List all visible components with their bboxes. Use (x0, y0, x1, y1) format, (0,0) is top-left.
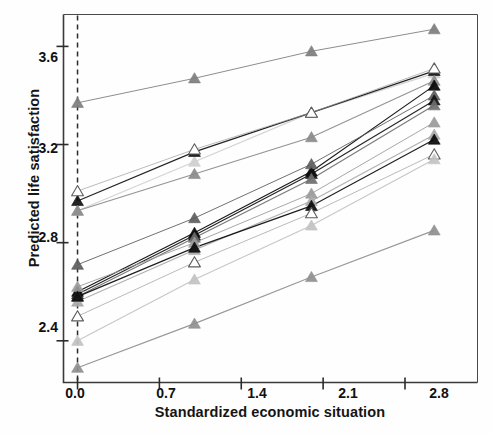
series-line (78, 159, 435, 341)
series-marker (189, 213, 201, 223)
series-marker (189, 156, 201, 166)
series-line (78, 122, 435, 286)
series-marker (189, 318, 201, 328)
series-marker (428, 24, 440, 34)
series-marker (72, 205, 84, 215)
chart-figure: Predicted life satisfaction Standardized… (0, 0, 492, 434)
series-marker (305, 107, 317, 117)
series-line (78, 81, 435, 211)
plot-area (0, 0, 492, 434)
series-marker (428, 63, 440, 73)
series-marker (305, 132, 317, 142)
series-marker (72, 259, 84, 269)
series-line (78, 69, 435, 192)
series-marker (305, 159, 317, 169)
series-marker (72, 195, 84, 205)
series-marker (72, 186, 84, 196)
series-marker (189, 274, 201, 284)
series-marker (72, 362, 84, 372)
series-marker (428, 225, 440, 235)
series-lines (78, 29, 435, 368)
series-marker (189, 144, 201, 154)
series-marker (428, 117, 440, 127)
series-markers (72, 24, 441, 373)
series-line (78, 29, 435, 103)
series-marker (72, 281, 84, 291)
series-marker (305, 220, 317, 230)
series-marker (72, 335, 84, 345)
series-marker (305, 271, 317, 281)
series-marker (189, 257, 201, 267)
series-marker (72, 311, 84, 321)
axis-frame (64, 15, 478, 383)
series-marker (189, 168, 201, 178)
series-line (78, 135, 435, 302)
